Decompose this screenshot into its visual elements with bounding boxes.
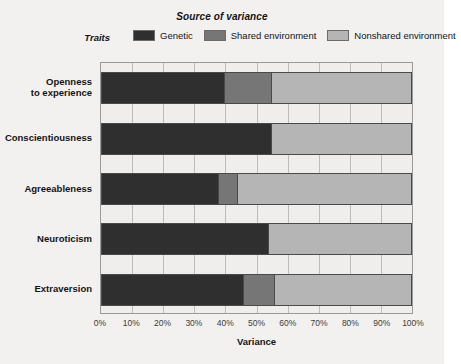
chart-legend: Genetic Shared environment Nonshared env… [133, 30, 461, 41]
legend-swatch-nonshared-environment [327, 30, 349, 41]
plot-area [100, 62, 413, 314]
legend-item-nonshared-environment[interactable]: Nonshared environment [327, 30, 455, 41]
bar-segment-genetic[interactable] [101, 123, 272, 155]
x-axis-tick-label: 70% [302, 318, 336, 328]
bar-row[interactable] [101, 223, 412, 255]
trait-label-line: Agreeableness [0, 183, 92, 194]
x-axis-tick-label: 90% [365, 318, 399, 328]
legend-swatch-genetic [133, 30, 155, 41]
y-axis-title: Traits [30, 32, 110, 43]
bar-row[interactable] [101, 72, 412, 104]
x-axis-title: Variance [100, 336, 413, 347]
bar-segment-genetic[interactable] [101, 274, 244, 306]
bar-segment-shared-environment[interactable] [225, 72, 272, 104]
x-axis-tick-label: 100% [396, 318, 430, 328]
x-axis-tick-label: 80% [333, 318, 367, 328]
bar-row[interactable] [101, 123, 412, 155]
legend-label-nonshared-environment: Nonshared environment [354, 30, 455, 41]
bar-segment-nonshared-environment[interactable] [238, 173, 412, 205]
bars-layer [101, 63, 412, 313]
trait-label-line: Extraversion [0, 283, 92, 294]
bar-segment-genetic[interactable] [101, 72, 225, 104]
legend-label-shared-environment: Shared environment [231, 30, 317, 41]
y-axis-tick-label: Extraversion [0, 283, 92, 294]
legend-label-genetic: Genetic [160, 30, 193, 41]
y-axis-tick-label: Agreeableness [0, 183, 92, 194]
bar-segment-nonshared-environment[interactable] [269, 223, 412, 255]
trait-label-line: Neuroticism [0, 233, 92, 244]
bar-segment-genetic[interactable] [101, 223, 269, 255]
x-axis-tick-label: 20% [146, 318, 180, 328]
trait-label-line: Conscientiousness [0, 132, 92, 143]
trait-label-line: to experience [0, 87, 92, 98]
x-axis-tick-label: 30% [177, 318, 211, 328]
bar-segment-shared-environment[interactable] [219, 173, 238, 205]
y-axis-tick-label: Opennessto experience [0, 76, 92, 98]
x-axis-tick-label: 40% [208, 318, 242, 328]
bar-segment-genetic[interactable] [101, 173, 219, 205]
chart-title: Source of variance [0, 11, 444, 22]
legend-swatch-shared-environment [204, 30, 226, 41]
legend-item-genetic[interactable]: Genetic [133, 30, 193, 41]
y-axis-tick-label: Neuroticism [0, 233, 92, 244]
bar-row[interactable] [101, 274, 412, 306]
trait-label-line: Openness [0, 76, 92, 87]
x-axis-tick-label: 60% [271, 318, 305, 328]
bar-segment-nonshared-environment[interactable] [272, 123, 412, 155]
bar-row[interactable] [101, 173, 412, 205]
x-axis-tick-label: 10% [114, 318, 148, 328]
x-axis-tick-label: 0% [83, 318, 117, 328]
x-axis-tick-label: 50% [240, 318, 274, 328]
bar-segment-shared-environment[interactable] [244, 274, 275, 306]
legend-item-shared-environment[interactable]: Shared environment [204, 30, 317, 41]
y-axis-tick-label: Conscientiousness [0, 132, 92, 143]
bar-segment-nonshared-environment[interactable] [272, 72, 412, 104]
bar-segment-nonshared-environment[interactable] [275, 274, 412, 306]
